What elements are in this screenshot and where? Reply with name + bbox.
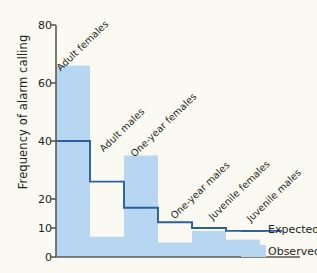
- observed-bar: [124, 156, 158, 258]
- observed-bar: [158, 243, 192, 258]
- legend-label-observed: Observed: [268, 245, 317, 258]
- legend-marker-observed: [241, 245, 266, 257]
- observed-bar: [56, 66, 90, 257]
- observed-bar: [90, 237, 124, 257]
- chart-figure: Frequency of alarm calling 80 60 40 20 1…: [0, 0, 317, 273]
- observed-bar: [192, 231, 226, 257]
- legend-label-expected: Expected: [268, 223, 317, 236]
